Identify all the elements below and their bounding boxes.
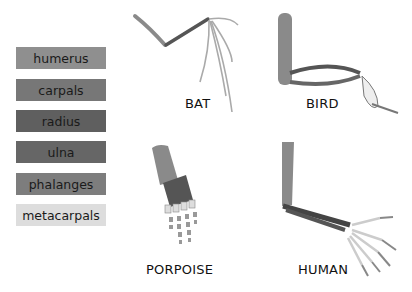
limb-illustrations: [0, 0, 412, 292]
human-arm-illustration: [282, 142, 396, 276]
bat-label: BAT: [185, 96, 210, 111]
bird-label: BIRD: [306, 96, 339, 111]
porpoise-label: PORPOISE: [146, 262, 213, 277]
human-label: HUMAN: [298, 262, 348, 277]
porpoise-flipper-illustration: [152, 145, 197, 244]
